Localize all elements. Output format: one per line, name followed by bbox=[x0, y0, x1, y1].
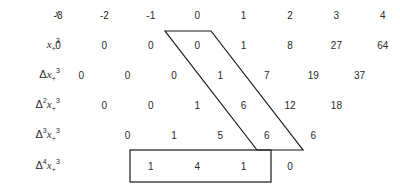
table-cell: 2 bbox=[287, 10, 293, 21]
table-cell: 0 bbox=[287, 161, 293, 172]
table-cell: 19 bbox=[308, 70, 319, 81]
row-label-x-plus-cubed: x+3 bbox=[0, 37, 60, 53]
power-superscript: 3 bbox=[56, 127, 60, 134]
table-cell: 0 bbox=[125, 70, 131, 81]
table-cell: 64 bbox=[377, 40, 388, 51]
delta-symbol: Δ bbox=[35, 128, 42, 140]
table-cell: 0 bbox=[55, 40, 61, 51]
table-cell: -3 bbox=[54, 10, 63, 21]
table-cell: 37 bbox=[354, 70, 365, 81]
row-label-delta-1: Δx+3 bbox=[0, 67, 60, 83]
table-cell: 5 bbox=[218, 130, 224, 141]
table-cell: 6 bbox=[264, 130, 270, 141]
table-cell: 8 bbox=[287, 40, 293, 51]
table-cell: 4 bbox=[380, 10, 386, 21]
plus-subscript: + bbox=[52, 134, 57, 143]
power-superscript: 3 bbox=[56, 158, 60, 165]
table-cell: 1 bbox=[171, 130, 177, 141]
row-label-x: x bbox=[0, 7, 60, 19]
table-cell: -2 bbox=[100, 10, 109, 21]
table-cell: 7 bbox=[264, 70, 270, 81]
row-label-delta-3: Δ3x+3 bbox=[0, 127, 60, 143]
table-cell: 6 bbox=[310, 130, 316, 141]
table-cell: 0 bbox=[194, 10, 200, 21]
diagonal-parallelogram bbox=[165, 31, 303, 150]
difference-table: x-3-2-101234x+30000182764Δx+3000171937Δ2… bbox=[0, 0, 400, 193]
delta-symbol: Δ bbox=[35, 159, 42, 171]
table-cell: 18 bbox=[331, 100, 342, 111]
table-cell: 0 bbox=[148, 100, 154, 111]
table-cell: 1 bbox=[241, 10, 247, 21]
power-superscript: 3 bbox=[56, 97, 60, 104]
table-cell: -1 bbox=[146, 10, 155, 21]
plus-subscript: + bbox=[52, 104, 57, 113]
table-cell: 0 bbox=[78, 70, 84, 81]
table-cell: 0 bbox=[148, 40, 154, 51]
table-cell: 6 bbox=[241, 100, 247, 111]
table-cell: 0 bbox=[102, 100, 108, 111]
table-cell: 1 bbox=[218, 70, 224, 81]
table-cell: 0 bbox=[194, 40, 200, 51]
table-cell: 0 bbox=[125, 130, 131, 141]
table-cell: 0 bbox=[171, 70, 177, 81]
table-cell: 27 bbox=[331, 40, 342, 51]
table-cell: 12 bbox=[284, 100, 295, 111]
plus-subscript: + bbox=[52, 165, 57, 174]
table-cell: 0 bbox=[102, 40, 108, 51]
table-cell: 1 bbox=[241, 40, 247, 51]
row-label-delta-2: Δ2x+3 bbox=[0, 97, 60, 113]
table-cell: 1 bbox=[148, 161, 154, 172]
plus-subscript: + bbox=[52, 74, 57, 83]
power-superscript: 3 bbox=[56, 67, 60, 74]
delta-symbol: Δ bbox=[35, 98, 42, 110]
table-cell: 1 bbox=[194, 100, 200, 111]
table-cell: 4 bbox=[194, 161, 200, 172]
delta-symbol: Δ bbox=[39, 68, 46, 80]
row-label-delta-4: Δ4x+3 bbox=[0, 158, 60, 174]
table-cell: 1 bbox=[241, 161, 247, 172]
table-cell: 3 bbox=[334, 10, 340, 21]
